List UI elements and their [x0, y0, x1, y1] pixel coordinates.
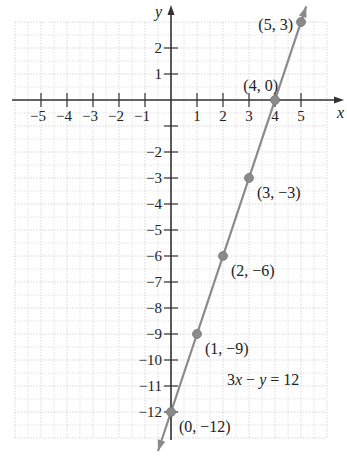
x-tick-label: −4	[56, 108, 72, 124]
data-point	[219, 252, 228, 261]
data-point	[271, 96, 280, 105]
labels: xy−5−4−3−2−11234521−2−3−4−5−6−7−8−9−10−1…	[30, 3, 344, 436]
data-point	[297, 18, 306, 27]
y-tick-label: −7	[146, 274, 162, 290]
y-axis-arrow-icon	[168, 5, 175, 15]
line-plot: xy−5−4−3−2−11234521−2−3−4−5−6−7−8−9−10−1…	[0, 0, 347, 456]
y-tick-label: −4	[146, 196, 162, 212]
x-tick-label: 4	[271, 108, 279, 124]
y-axis-label: y	[153, 3, 163, 21]
x-tick-label: 3	[245, 108, 253, 124]
line-arrow-down-icon	[158, 439, 166, 451]
y-tick-label: −5	[146, 222, 162, 238]
y-tick-label: −11	[139, 378, 162, 394]
point-label: (3, −3)	[257, 184, 301, 202]
y-tick-label: 1	[155, 66, 163, 82]
line-arrow-up-icon	[299, 6, 307, 18]
y-tick-label: −10	[139, 352, 162, 368]
x-axis-label: x	[336, 104, 344, 121]
x-tick-label: 2	[219, 108, 227, 124]
x-tick-label: −5	[30, 108, 46, 124]
y-tick-label: −8	[146, 300, 162, 316]
y-tick-label: −9	[146, 326, 162, 342]
data-point	[167, 408, 176, 417]
x-tick-label: −3	[82, 108, 98, 124]
point-label: (5, 3)	[258, 16, 293, 34]
point-label: (4, 0)	[243, 77, 278, 95]
y-tick-label: −6	[146, 248, 162, 264]
y-tick-label: −12	[139, 404, 162, 420]
graph-figure: xy−5−4−3−2−11234521−2−3−4−5−6−7−8−9−10−1…	[0, 0, 347, 456]
point-label: (2, −6)	[231, 262, 275, 280]
y-tick-label: 2	[155, 40, 163, 56]
x-tick-label: −2	[108, 108, 124, 124]
point-label: (0, −12)	[179, 418, 231, 436]
data-point	[245, 174, 254, 183]
y-tick-label: −3	[146, 170, 162, 186]
x-tick-label: 1	[193, 108, 201, 124]
data-point	[193, 330, 202, 339]
equation-label: 3x − y = 12	[227, 371, 299, 389]
x-axis-arrow-icon	[334, 97, 344, 104]
x-tick-label: −1	[134, 108, 150, 124]
x-tick-label: 5	[297, 108, 305, 124]
point-label: (1, −9)	[205, 340, 249, 358]
y-tick-label: −2	[146, 144, 162, 160]
